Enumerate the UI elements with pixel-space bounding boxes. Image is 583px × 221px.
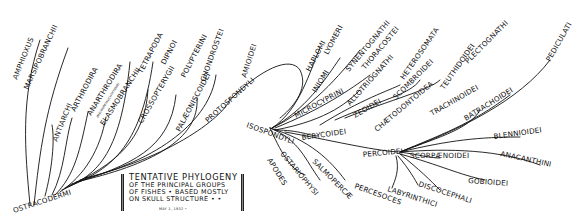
label-blennioidei: BLENNIOIDEI bbox=[493, 125, 542, 141]
label-lyomeri: LYOMERI bbox=[322, 23, 345, 55]
title-bar-left bbox=[121, 174, 124, 211]
label-gobioidei: GOBIOIDEI bbox=[468, 176, 509, 188]
title-line-4: ON SKULL STRUCTURE • • bbox=[129, 196, 233, 203]
label-iniomi: INIOMI bbox=[310, 68, 331, 94]
label-isospondyli: ISOSPONDYLI bbox=[245, 120, 295, 146]
title-legend: TENTATIVE PHYLOGENY OF THE PRINCIPAL GRO… bbox=[121, 170, 351, 220]
label-dipnoi: DIPNOI bbox=[159, 38, 179, 65]
label-amioidei: AMIOIDEI bbox=[239, 43, 258, 79]
label-scorpaenoidei: SCORPÆNOIDEI bbox=[410, 151, 469, 160]
label-ostracodermi: OSTRACODERMI bbox=[12, 188, 72, 215]
title-date: MAY 1, 1932 • bbox=[129, 207, 233, 211]
label-protospondyli: PROTOSPONDYLI bbox=[203, 75, 256, 124]
title-bar-right bbox=[241, 174, 244, 211]
title-text-block: TENTATIVE PHYLOGENY OF THE PRINCIPAL GRO… bbox=[129, 172, 233, 211]
label-haplomi: HAPLOMI bbox=[304, 39, 328, 73]
label-tetrapoda: TETRAPODA bbox=[135, 31, 165, 76]
label-plectognathi: PLECTOGNATHI bbox=[463, 18, 510, 65]
label-anacanthini: ANACANTHINI bbox=[500, 149, 553, 169]
label-pediculati: PEDICULATI bbox=[544, 21, 574, 63]
